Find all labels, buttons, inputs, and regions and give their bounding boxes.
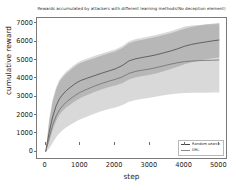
y-tick-mark <box>34 77 37 78</box>
chart-legend: Random search DRL <box>178 140 223 156</box>
y-tick-label: 4000 <box>0 74 33 82</box>
y-tick-mark <box>34 151 37 152</box>
y-tick-mark <box>34 114 37 115</box>
plot-area: Random search DRL <box>36 17 227 159</box>
chart-title: Rewards accumulated by attackers with di… <box>36 6 227 12</box>
x-tick-mark <box>114 142 115 145</box>
y-tick-mark <box>34 132 37 133</box>
x-tick-mark <box>184 142 185 145</box>
y-tick-label: 5000 <box>0 56 33 64</box>
y-tick-label: 0 <box>0 147 33 155</box>
y-tick-mark <box>34 22 37 23</box>
legend-label-drl: DRL <box>192 148 199 154</box>
chart-figure: Rewards accumulated by attackers with di… <box>0 0 236 190</box>
y-tick-label: 2000 <box>0 111 33 119</box>
y-tick-label: 3000 <box>0 92 33 100</box>
x-tick-mark <box>45 142 46 145</box>
y-tick-mark <box>34 96 37 97</box>
y-tick-label: 7000 <box>0 19 33 27</box>
x-tick-label: 5000 <box>198 161 236 169</box>
y-tick-mark <box>34 59 37 60</box>
legend-swatch-drl <box>181 150 190 151</box>
x-tick-mark <box>79 142 80 145</box>
x-tick-mark <box>149 142 150 145</box>
legend-swatch-random-search <box>181 144 190 145</box>
x-axis-label: step <box>36 172 227 181</box>
legend-item-drl: DRL <box>181 148 220 154</box>
y-tick-mark <box>34 41 37 42</box>
y-tick-label: 1000 <box>0 129 33 137</box>
y-tick-label: 6000 <box>0 37 33 45</box>
x-tick-mark <box>218 142 219 145</box>
